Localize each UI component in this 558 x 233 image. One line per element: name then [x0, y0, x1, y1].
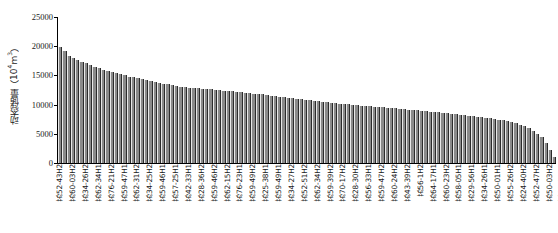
y-tick-label: 15000 [32, 70, 53, 80]
x-tick-label: 苏59-39H2 [327, 164, 334, 201]
x-tick-label: 苏25-38H1 [262, 164, 269, 201]
x-tick-label: 苏59-47H2 [378, 164, 385, 201]
y-tick-mark [54, 105, 58, 106]
bar-series [58, 17, 556, 163]
y-tick-mark [54, 134, 58, 135]
x-axis-tick-labels: 苏52-43H2苏60-03H2苏34-26H2苏62-34H1苏76-21H2… [58, 164, 556, 233]
x-tick-label: 苏34-27H2 [288, 164, 295, 201]
x-tick-label: 苏59-46H1 [159, 164, 166, 201]
x-tick-label: 苏50-01H1 [494, 164, 501, 201]
x-tick-label: 苏59-47H1 [121, 164, 128, 201]
x-tick-label: 苏28-30H2 [352, 164, 359, 201]
x-tick-label: 苏59-49H1 [275, 164, 282, 201]
x-tick-label: 苏34-26H2 [82, 164, 89, 201]
x-tick-label: 苏52-43H2 [56, 164, 63, 201]
x-tick-label: 苏42-33H1 [185, 164, 192, 201]
x-tick-label: 苏43-39H2 [404, 164, 411, 201]
x-tick-label: 苏56-33H1 [365, 164, 372, 201]
bar [552, 157, 556, 163]
x-tick-label: 苏59-49H2 [249, 164, 256, 201]
y-axis-tick-labels: 0500010000150002000025000 [18, 0, 56, 168]
y-tick-mark [54, 46, 58, 47]
x-tick-label: 苏52-51H2 [301, 164, 308, 201]
x-tick-label: 苏34-26H1 [481, 164, 488, 201]
x-tick-label: 苏60-03H2 [69, 164, 76, 201]
x-tick-label: 苏62-15H2 [224, 164, 231, 201]
x-tick-label: 苏52-47H2 [533, 164, 540, 201]
x-tick-label: 苏55-26H2 [507, 164, 514, 201]
x-tick-label: 苏62-31H2 [133, 164, 140, 201]
x-tick-label: 苏57-25H1 [172, 164, 179, 201]
y-tick-label: 5000 [36, 129, 53, 139]
x-tick-label: 苏62-34H2 [314, 164, 321, 201]
x-tick-label: 苏29-56H1 [468, 164, 475, 201]
x-tick-label: 苏24-40H2 [520, 164, 527, 201]
x-tick-label: 苏76-23H1 [236, 164, 243, 201]
y-tick-mark [54, 75, 58, 76]
y-tick-mark [54, 17, 58, 18]
x-tick-label: 苏59-46H2 [211, 164, 218, 201]
y-tick-label: 20000 [32, 41, 53, 51]
x-tick-label: 苏62-34H1 [95, 164, 102, 201]
plot-area [58, 17, 556, 163]
x-tick-label: 苏56-1H2 [417, 164, 424, 196]
chart-container: 动态储量（104m3） 0500010000150002000025000 苏5… [0, 0, 558, 233]
y-tick-label: 0 [49, 158, 53, 168]
x-tick-label: 苏58-05H1 [455, 164, 462, 201]
x-tick-label: 苏76-21H2 [108, 164, 115, 201]
x-tick-label: 苏34-25H2 [146, 164, 153, 201]
x-tick-label: 苏60-23H2 [443, 164, 450, 201]
x-tick-label: 苏60-24H2 [391, 164, 398, 201]
x-tick-label: 苏50-03H2 [546, 164, 553, 201]
x-tick-label: 苏64-17H1 [430, 164, 437, 201]
y-tick-label: 25000 [32, 12, 53, 22]
x-tick-label: 苏70-17H2 [339, 164, 346, 201]
y-tick-label: 10000 [32, 100, 53, 110]
x-tick-label: 苏28-36H2 [198, 164, 205, 201]
